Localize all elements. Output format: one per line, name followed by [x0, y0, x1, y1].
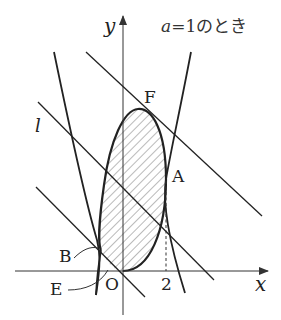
hatched-region: [99, 109, 166, 271]
title-variable: a: [161, 16, 171, 36]
point-label-B: B: [59, 248, 72, 265]
y-axis-label: y: [104, 16, 115, 36]
origin-label: O: [105, 276, 119, 293]
left-parabola-inner: [96, 250, 101, 295]
graph-canvas: [0, 0, 281, 320]
point-label-F: F: [144, 89, 156, 106]
E-leader: [68, 270, 108, 290]
point-label-A: A: [172, 168, 184, 185]
line-label-l: l: [35, 117, 41, 135]
x-axis-label: x: [255, 274, 266, 294]
B-leader: [74, 247, 98, 258]
point-label-E: E: [50, 281, 62, 298]
x-tick-label-2: 2: [161, 276, 172, 293]
title-rest: =1のとき: [171, 16, 247, 36]
diagram: y a=1のとき F l A B E O 2 x: [0, 0, 281, 320]
condition-title: a=1のとき: [161, 18, 247, 35]
